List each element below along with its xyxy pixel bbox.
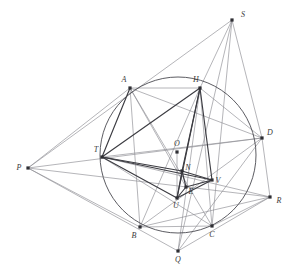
point-label-B: B	[132, 231, 137, 240]
segment-A-B	[130, 88, 140, 227]
point-label-layer: AHDCBTONVEUPQRS	[16, 10, 282, 264]
point-label-C: C	[209, 230, 215, 239]
point-label-A: A	[121, 75, 127, 84]
point-marker-N	[180, 169, 183, 172]
point-label-D: D	[266, 128, 273, 137]
point-marker-A	[128, 86, 131, 89]
point-marker-U	[175, 196, 178, 199]
segment-R-B	[140, 197, 270, 227]
point-label-S: S	[241, 10, 245, 19]
segment-Q-R	[178, 197, 270, 251]
geometry-canvas: AHDCBTONVEUPQRS	[0, 0, 296, 278]
segment-S-D	[232, 20, 262, 138]
segment-P-B	[28, 168, 140, 227]
point-label-P: P	[16, 163, 22, 172]
segment-T-V	[102, 157, 212, 180]
segment-A-E	[130, 88, 186, 187]
point-label-Q: Q	[175, 255, 181, 264]
point-marker-R	[268, 195, 271, 198]
light-segment-layer	[28, 20, 270, 251]
point-marker-O	[175, 150, 178, 153]
segment-B-C	[140, 226, 212, 227]
point-marker-S	[230, 18, 233, 21]
point-label-E: E	[188, 187, 194, 196]
point-marker-V	[210, 178, 213, 181]
point-marker-T	[100, 155, 103, 158]
point-marker-B	[138, 225, 141, 228]
segment-A-D	[130, 88, 262, 138]
segment-P-A	[28, 88, 130, 168]
segment-H-D	[200, 88, 262, 138]
geometry-figure: AHDCBTONVEUPQRS	[0, 0, 296, 278]
point-marker-E	[184, 185, 187, 188]
segment-U-V	[177, 180, 212, 198]
point-marker-C	[210, 224, 213, 227]
point-label-R: R	[276, 196, 282, 205]
point-label-O: O	[174, 139, 180, 148]
segment-S-H	[200, 20, 232, 88]
segment-H-V	[200, 88, 212, 180]
point-label-V: V	[216, 176, 222, 185]
point-marker-H	[198, 86, 201, 89]
segment-E-N	[182, 171, 186, 187]
point-marker-P	[26, 166, 29, 169]
point-label-N: N	[184, 163, 191, 172]
point-marker-D	[260, 136, 263, 139]
point-label-T: T	[94, 145, 99, 154]
segment-P-Q	[28, 168, 178, 251]
segment-R-D	[262, 138, 270, 197]
point-marker-Q	[176, 249, 179, 252]
segment-T-D	[102, 138, 262, 157]
segment-H-C	[200, 88, 212, 226]
